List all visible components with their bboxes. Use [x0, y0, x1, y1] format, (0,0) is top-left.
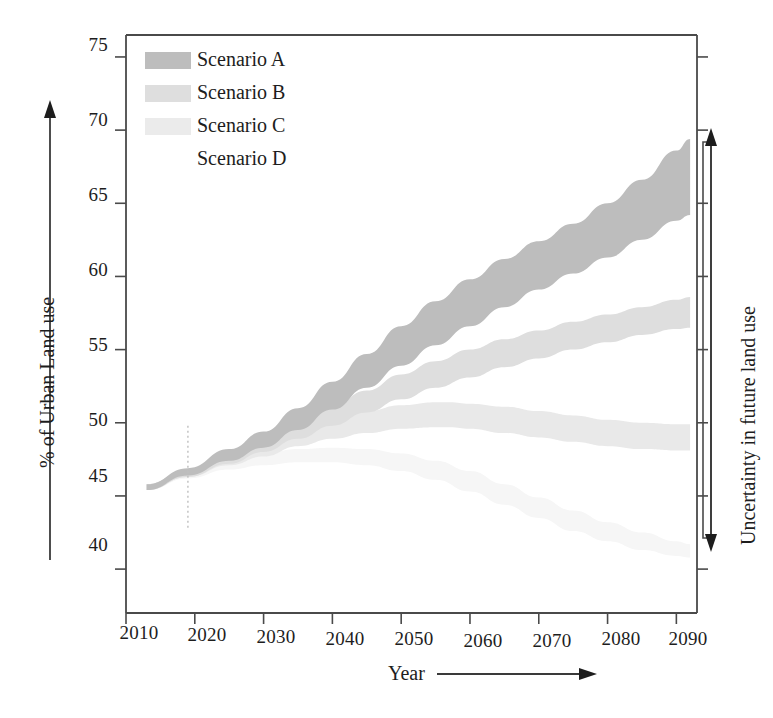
x-tick-label-2060: 2060	[464, 630, 503, 652]
x-axis-ticks	[126, 613, 676, 624]
legend-label-scenario-d: Scenario D	[197, 147, 286, 170]
y-tick-label-45: 45	[62, 465, 108, 487]
y-tick-label-40: 40	[62, 534, 108, 556]
x-tick-label-2090: 2090	[669, 628, 708, 650]
legend-label-scenario-a: Scenario A	[197, 48, 285, 71]
x-axis-arrow	[437, 668, 597, 680]
chart-canvas	[0, 0, 773, 718]
x-tick-label-2070: 2070	[533, 630, 572, 652]
y-axis-title: % of Urban Land use	[36, 297, 59, 468]
legend-label-scenario-b: Scenario B	[197, 81, 285, 104]
y-tick-label-60: 60	[62, 259, 108, 281]
legend-swatch-2	[145, 85, 191, 102]
y-tick-label-50: 50	[62, 409, 108, 431]
chart-figure: 75 70 65 60 55 50 45 40 2010 2020 2030 2…	[0, 0, 773, 718]
x-tick-label-2010: 2010	[120, 622, 159, 644]
uncertainty-double-arrow	[705, 128, 717, 552]
y-tick-label-75: 75	[62, 34, 108, 56]
legend-swatch-3	[145, 118, 191, 135]
y-tick-label-65: 65	[62, 184, 108, 206]
x-tick-label-2020: 2020	[188, 624, 227, 646]
x-tick-label-2040: 2040	[326, 628, 365, 650]
x-tick-label-2050: 2050	[395, 628, 434, 650]
x-tick-label-2030: 2030	[257, 626, 296, 648]
uncertainty-annotation-label: Uncertainty in future land use	[737, 306, 760, 545]
y-tick-label-70: 70	[62, 109, 108, 131]
legend-swatches	[145, 52, 191, 135]
legend-label-scenario-c: Scenario C	[197, 114, 285, 137]
x-tick-label-2080: 2080	[602, 628, 641, 650]
x-axis-title: Year	[388, 662, 425, 685]
legend-swatch-1	[145, 52, 191, 69]
y-tick-label-55: 55	[62, 334, 108, 356]
